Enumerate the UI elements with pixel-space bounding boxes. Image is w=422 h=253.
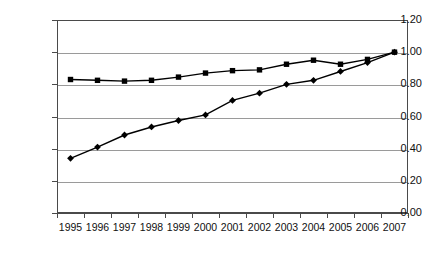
x-axis-tick-mark (381, 213, 382, 218)
x-axis-tick-label: 2000 (194, 222, 217, 233)
x-axis-tick-label: 1999 (167, 222, 190, 233)
x-axis-tick-mark (300, 213, 301, 218)
x-axis-tick-label: 2002 (248, 222, 271, 233)
x-axis-tick-label: 1998 (140, 222, 163, 233)
x-axis-tick-label: 2005 (329, 222, 352, 233)
line-chart: 1.201.000.800.600.400.200.00 19951996199… (0, 0, 422, 253)
x-axis-tick-mark (273, 213, 274, 218)
x-axis-tick-label: 1996 (86, 222, 109, 233)
gridline (58, 150, 407, 151)
x-axis-tick-mark (138, 213, 139, 218)
x-axis-tick-mark (219, 213, 220, 218)
y-axis-tick-label: 0.40 (374, 143, 422, 154)
y-axis-tick-label: 0.20 (374, 175, 422, 186)
y-axis-tick-mark (52, 52, 57, 53)
y-axis-tick-label: 0.80 (374, 78, 422, 89)
x-axis-tick-label: 2006 (356, 222, 379, 233)
x-axis-tick-label: 2003 (275, 222, 298, 233)
x-axis-tick-mark (192, 213, 193, 218)
x-axis-tick-label: 2004 (302, 222, 325, 233)
gridline (58, 118, 407, 119)
y-axis-tick-mark (52, 181, 57, 182)
y-axis-tick-label: 1.00 (374, 46, 422, 57)
y-axis-tick-label: 1.20 (374, 14, 422, 25)
y-axis-tick-mark (52, 149, 57, 150)
x-axis-line (57, 213, 409, 214)
x-axis-tick-label: 1997 (113, 222, 136, 233)
gridline (58, 182, 407, 183)
x-axis-tick-mark (327, 213, 328, 218)
x-axis-tick-mark (111, 213, 112, 218)
y-axis-tick-label: 0.60 (374, 111, 422, 122)
x-axis-tick-mark (354, 213, 355, 218)
x-axis-tick-mark (246, 213, 247, 218)
x-axis-tick-mark (165, 213, 166, 218)
x-axis-tick-mark (84, 213, 85, 218)
y-axis-tick-mark (52, 84, 57, 85)
x-axis-tick-mark (408, 213, 409, 218)
gridline (58, 53, 407, 54)
plot-area (57, 20, 408, 213)
y-axis-tick-mark (52, 20, 57, 21)
y-axis-tick-mark (52, 117, 57, 118)
x-axis-tick-label: 2007 (383, 222, 406, 233)
y-axis-line (57, 20, 58, 214)
gridline (58, 85, 407, 86)
x-axis-tick-label: 2001 (221, 222, 244, 233)
x-axis-tick-label: 1995 (59, 222, 82, 233)
x-axis-tick-mark (57, 213, 58, 218)
